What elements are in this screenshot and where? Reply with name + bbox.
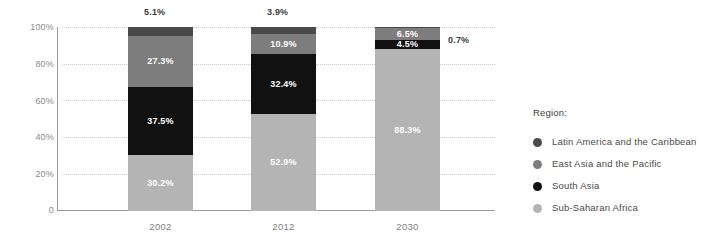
legend-label-east-asia: East Asia and the Pacific [552, 159, 662, 169]
y-tick-label-80: 80% [0, 60, 54, 69]
bar-2012-east-asia-label: 10.9% [270, 39, 297, 49]
bar-2002-latin-america-label: 5.1% [144, 7, 165, 17]
bar-group-2002: 5.1% 27.3% 37.5% 30.2% [128, 27, 193, 211]
bar-2030-segment-east-asia[interactable]: 6.5% [375, 28, 440, 40]
bar-2030-sub-saharan-label: 88.3% [394, 125, 421, 135]
legend-label-south-asia: South Asia [552, 181, 599, 191]
x-tick-label-2002: 2002 [128, 222, 193, 232]
legend-label-sub-saharan: Sub-Saharan Africa [552, 203, 638, 213]
bar-2012-segment-south-asia[interactable]: 32.4% [251, 54, 316, 114]
legend-label-latin-america: Latin America and the Caribbean [552, 137, 697, 147]
legend-swatch-circle-icon [533, 182, 542, 191]
y-tick-label-100: 100% [0, 23, 54, 32]
bar-group-2012: 3.9% 10.9% 32.4% 52.9% [251, 27, 316, 211]
bar-2002-segment-south-asia[interactable]: 37.5% [128, 87, 193, 156]
stacked-bar-chart: 100% 80% 60% 40% 20% 0 5.1% 27.3% 37.5% [0, 0, 715, 249]
y-tick-label-60: 60% [0, 97, 54, 106]
bar-group-2030: 0.7% 6.5% 4.5% 88.3% [375, 27, 440, 211]
x-tick-label-2012: 2012 [251, 222, 316, 232]
bar-2030-segment-sub-saharan[interactable]: 88.3% [375, 49, 440, 211]
legend-title: Region: [533, 108, 713, 118]
legend-swatch-circle-icon [533, 138, 542, 147]
bar-2012-segment-latin-america[interactable] [251, 27, 316, 34]
bar-2012[interactable]: 10.9% 32.4% 52.9% [251, 27, 316, 211]
bar-2002-segment-east-asia[interactable]: 27.3% [128, 36, 193, 86]
bar-2002-segment-sub-saharan[interactable]: 30.2% [128, 155, 193, 211]
bar-2030-east-asia-label: 6.5% [397, 29, 418, 39]
y-axis: 100% 80% 60% 40% 20% 0 [0, 0, 54, 249]
x-tick-label-2030: 2030 [375, 222, 440, 232]
legend-item-south-asia[interactable]: South Asia [533, 175, 713, 197]
bar-2012-south-asia-label: 32.4% [270, 79, 297, 89]
y-tick-label-40: 40% [0, 133, 54, 142]
bar-2002-south-asia-label: 37.5% [147, 116, 174, 126]
bar-2030-latin-america-label: 0.7% [448, 35, 469, 45]
bar-2002[interactable]: 27.3% 37.5% 30.2% [128, 27, 193, 211]
legend: Region: Latin America and the Caribbean … [533, 108, 713, 219]
legend-item-east-asia[interactable]: East Asia and the Pacific [533, 153, 713, 175]
bar-2002-east-asia-label: 27.3% [147, 56, 174, 66]
legend-swatch-circle-icon [533, 204, 542, 213]
legend-swatch-circle-icon [533, 160, 542, 169]
legend-item-latin-america[interactable]: Latin America and the Caribbean [533, 131, 713, 153]
bar-2012-segment-sub-saharan[interactable]: 52.9% [251, 114, 316, 211]
legend-item-sub-saharan[interactable]: Sub-Saharan Africa [533, 197, 713, 219]
bar-2030-south-asia-label: 4.5% [397, 40, 418, 48]
bar-2030-segment-south-asia[interactable]: 4.5% [375, 40, 440, 48]
bar-2012-latin-america-label: 3.9% [267, 7, 288, 17]
plot-area: 5.1% 27.3% 37.5% 30.2% 3.9% 10.9% [57, 27, 495, 211]
bar-2012-sub-saharan-label: 52.9% [270, 157, 297, 167]
y-tick-label-20: 20% [0, 170, 54, 179]
bar-2002-segment-latin-america[interactable] [128, 27, 193, 36]
bar-2002-sub-saharan-label: 30.2% [147, 178, 174, 188]
bar-2012-segment-east-asia[interactable]: 10.9% [251, 34, 316, 54]
bar-2030[interactable]: 6.5% 4.5% 88.3% [375, 27, 440, 211]
y-tick-label-0: 0 [0, 206, 54, 215]
